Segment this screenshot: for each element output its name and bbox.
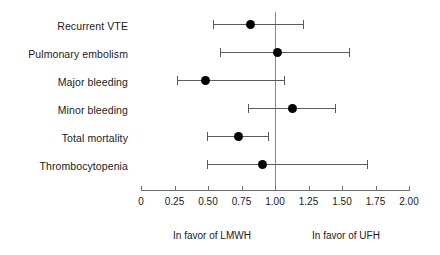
confidence-interval-cap-high bbox=[284, 76, 285, 85]
row-label-pulmonary-embolism: Pulmonary embolism bbox=[0, 49, 128, 60]
confidence-interval-cap-low bbox=[248, 104, 249, 113]
confidence-interval-cap-high bbox=[303, 20, 304, 29]
confidence-interval-line bbox=[220, 52, 349, 53]
confidence-interval-cap-low bbox=[207, 132, 208, 141]
point-estimate-marker bbox=[258, 160, 267, 169]
x-axis-tick bbox=[409, 186, 410, 191]
x-axis-tick bbox=[175, 186, 176, 191]
forest-plot: Recurrent VTE Pulmonary embolism Major b… bbox=[0, 0, 440, 255]
confidence-interval-cap-high bbox=[349, 48, 350, 57]
confidence-interval-cap-low bbox=[177, 76, 178, 85]
confidence-interval-cap-high bbox=[335, 104, 336, 113]
annotation-in-favor-of-ufh: In favor of UFH bbox=[266, 231, 426, 241]
x-axis-tick-label: 2.00 bbox=[389, 197, 429, 207]
x-axis-tick bbox=[242, 186, 243, 191]
x-axis-tick bbox=[376, 186, 377, 191]
point-estimate-marker bbox=[201, 76, 210, 85]
x-axis-tick bbox=[275, 186, 276, 191]
row-label-minor-bleeding: Minor bleeding bbox=[0, 105, 128, 116]
row-label-thrombocytopenia: Thrombocytopenia bbox=[0, 161, 128, 172]
confidence-interval-cap-low bbox=[207, 160, 208, 169]
x-axis-tick bbox=[141, 186, 142, 191]
row-label-major-bleeding: Major bleeding bbox=[0, 77, 128, 88]
confidence-interval-cap-low bbox=[220, 48, 221, 57]
x-axis-tick bbox=[208, 186, 209, 191]
row-label-total-mortality: Total mortality bbox=[0, 133, 128, 144]
confidence-interval-line bbox=[213, 24, 303, 25]
confidence-interval-cap-low bbox=[213, 20, 214, 29]
point-estimate-marker bbox=[246, 20, 255, 29]
point-estimate-marker bbox=[288, 104, 297, 113]
confidence-interval-line bbox=[207, 164, 368, 165]
row-label-recurrent-vte: Recurrent VTE bbox=[0, 21, 128, 32]
point-estimate-marker bbox=[234, 132, 243, 141]
x-axis-tick bbox=[342, 186, 343, 191]
confidence-interval-cap-high bbox=[268, 132, 269, 141]
confidence-interval-cap-high bbox=[367, 160, 368, 169]
x-axis-tick bbox=[309, 186, 310, 191]
point-estimate-marker bbox=[273, 48, 282, 57]
confidence-interval-line bbox=[177, 80, 284, 81]
